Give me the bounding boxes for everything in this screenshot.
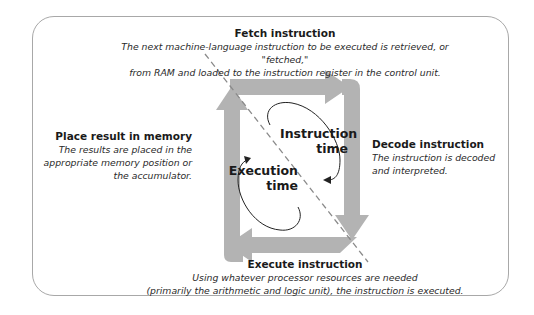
phase-execution-time-line2: time [226, 178, 298, 193]
arrow-left-icon [227, 228, 357, 262]
step-decode-desc-line1: The instruction is decoded [372, 151, 512, 164]
step-execute: Execute instruction Using whatever proce… [140, 258, 470, 297]
step-store-title: Place result in memory [40, 130, 192, 143]
phase-execution-time-line1: Execution [226, 163, 298, 178]
step-store-desc-line3: the accumulator. [40, 169, 192, 182]
step-store: Place result in memory The results are p… [40, 130, 192, 182]
step-store-desc-line1: The results are placed in the [40, 143, 192, 156]
phase-instruction-time-line2: time [280, 141, 348, 156]
phase-instruction-time-line1: Instruction [280, 126, 348, 141]
step-fetch-desc-line2: from RAM and loaded to the instruction r… [120, 66, 450, 79]
phase-execution-time: Execution time [226, 163, 298, 193]
step-fetch-title: Fetch instruction [120, 27, 450, 40]
step-execute-title: Execute instruction [140, 258, 470, 271]
step-execute-desc-line2: (primarily the arithmetic and logic unit… [140, 284, 470, 297]
phase-instruction-time: Instruction time [280, 126, 348, 156]
step-fetch-desc-line1: The next machine-language instruction to… [120, 40, 450, 66]
step-store-desc-line2: appropriate memory position or [40, 156, 192, 169]
step-fetch: Fetch instruction The next machine-langu… [120, 27, 450, 79]
step-decode-title: Decode instruction [372, 138, 512, 151]
step-execute-desc-line1: Using whatever processor resources are n… [140, 271, 470, 284]
step-decode: Decode instruction The instruction is de… [372, 138, 512, 177]
step-decode-desc-line2: and interpreted. [372, 164, 512, 177]
